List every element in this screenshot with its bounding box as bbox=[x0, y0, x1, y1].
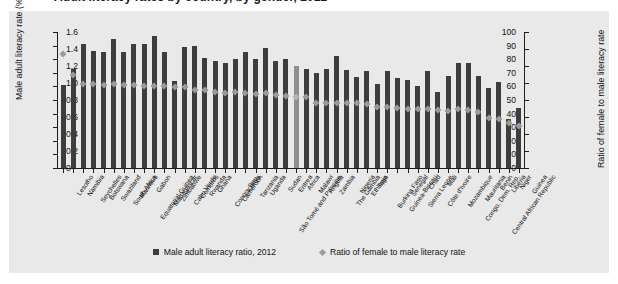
bar bbox=[294, 66, 299, 168]
bar bbox=[344, 70, 349, 168]
figure-title-cut: Adult literacy rates by country, by gend… bbox=[0, 0, 618, 6]
y-axis-right-tick-label: 1.6 bbox=[66, 28, 78, 37]
bar bbox=[364, 71, 369, 168]
x-axis-tick bbox=[185, 169, 186, 173]
y-axis-left-tick bbox=[53, 32, 57, 33]
x-axis-tick bbox=[164, 169, 165, 173]
bar bbox=[435, 92, 440, 168]
y-axis-right-tick bbox=[525, 168, 529, 169]
x-axis-tick bbox=[519, 169, 520, 173]
x-axis-tick bbox=[448, 169, 449, 173]
x-axis-tick bbox=[215, 169, 216, 173]
bar bbox=[101, 52, 106, 168]
legend-item-male-literacy: Male adult literacy ratio, 2012 bbox=[153, 247, 276, 257]
x-axis-tick bbox=[235, 169, 236, 173]
bar bbox=[476, 76, 481, 168]
y-axis-left-tick bbox=[53, 73, 57, 74]
legend-label-ratio: Ratio of female to male literacy rate bbox=[330, 247, 465, 257]
bar bbox=[395, 78, 400, 168]
x-axis-tick bbox=[124, 169, 125, 173]
y-axis-left-tick bbox=[53, 168, 57, 169]
x-axis-tick bbox=[114, 169, 115, 173]
x-axis-tick bbox=[154, 169, 155, 173]
x-axis-tick bbox=[73, 169, 74, 173]
x-axis-tick bbox=[316, 169, 317, 173]
x-axis-tick bbox=[438, 169, 439, 173]
bar bbox=[415, 86, 420, 168]
bar bbox=[223, 63, 228, 168]
y-axis-left-line bbox=[57, 32, 58, 169]
chart-figure: Adult literacy rates by country, by gend… bbox=[0, 0, 618, 284]
y-axis-left-tick-label: 60 bbox=[506, 82, 516, 91]
y-axis-left-tick bbox=[53, 86, 57, 87]
bar bbox=[304, 69, 309, 168]
x-axis-tick bbox=[175, 169, 176, 173]
legend-label-male-literacy: Male adult literacy ratio, 2012 bbox=[164, 247, 276, 257]
bar bbox=[131, 44, 136, 168]
x-axis-tick bbox=[357, 169, 358, 173]
y-axis-right-tick bbox=[525, 100, 529, 101]
bar bbox=[91, 51, 96, 168]
y-axis-left-tick-label: 50 bbox=[506, 96, 516, 105]
bar bbox=[233, 59, 238, 168]
x-axis-tick bbox=[509, 169, 510, 173]
y-axis-left-tick-label: 70 bbox=[506, 69, 516, 78]
bar bbox=[182, 47, 187, 168]
bar bbox=[71, 69, 76, 168]
bar bbox=[466, 63, 471, 168]
bar bbox=[314, 73, 319, 168]
x-axis-tick bbox=[306, 169, 307, 173]
y-axis-left-tick-label: 0 bbox=[511, 164, 516, 173]
y-axis-right-tick bbox=[525, 134, 529, 135]
bar bbox=[425, 71, 430, 168]
bar bbox=[385, 71, 390, 168]
x-axis-tick bbox=[367, 169, 368, 173]
y-axis-left-tick bbox=[53, 59, 57, 60]
bar bbox=[273, 61, 278, 168]
y-axis-right-tick bbox=[525, 117, 529, 118]
bar bbox=[456, 63, 461, 168]
bar bbox=[516, 108, 521, 168]
bar bbox=[496, 82, 501, 168]
y-axis-left-tick-label: 90 bbox=[506, 41, 516, 50]
x-axis-tick bbox=[245, 169, 246, 173]
y-axis-right-tick-label: 1.4 bbox=[66, 45, 78, 54]
y-axis-right-tick bbox=[525, 151, 529, 152]
y-axis-left-tick-label: 80 bbox=[506, 55, 516, 64]
y-axis-left-tick bbox=[53, 46, 57, 47]
bar bbox=[121, 52, 126, 168]
bar bbox=[142, 44, 147, 168]
bar bbox=[111, 39, 116, 168]
bar bbox=[253, 59, 258, 168]
y-axis-right-tick bbox=[525, 32, 529, 33]
bar bbox=[446, 76, 451, 168]
y-axis-left-tick-label: 40 bbox=[506, 109, 516, 118]
bar bbox=[283, 59, 288, 168]
x-axis-tick bbox=[408, 169, 409, 173]
x-axis-tick bbox=[296, 169, 297, 173]
chart-legend: Male adult literacy ratio, 2012 Ratio of… bbox=[0, 247, 618, 257]
bar bbox=[152, 36, 157, 168]
y-axis-left-tick bbox=[53, 154, 57, 155]
legend-item-ratio: Ratio of female to male literacy rate bbox=[320, 247, 465, 257]
bar bbox=[354, 77, 359, 168]
x-axis-tick bbox=[195, 169, 196, 173]
x-axis-tick bbox=[205, 169, 206, 173]
bar bbox=[162, 52, 167, 168]
bar bbox=[243, 52, 248, 168]
bar bbox=[263, 48, 268, 168]
y-axis-left-tick bbox=[53, 114, 57, 115]
y-axis-right-tick bbox=[525, 49, 529, 50]
x-axis-tick bbox=[387, 169, 388, 173]
x-axis-tick bbox=[63, 169, 64, 173]
x-axis-tick bbox=[458, 169, 459, 173]
x-axis-tick bbox=[397, 169, 398, 173]
plot-area: 010203040506070809010000.20.40.60.81.01.… bbox=[58, 32, 524, 168]
bar bbox=[202, 58, 207, 168]
y-axis-left-tick bbox=[53, 141, 57, 142]
x-axis-tick bbox=[266, 169, 267, 173]
x-axis-tick bbox=[256, 169, 257, 173]
diamond-swatch-icon bbox=[319, 248, 326, 255]
bar bbox=[61, 85, 66, 168]
x-axis-tick bbox=[276, 169, 277, 173]
